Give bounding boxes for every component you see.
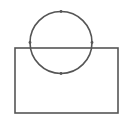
point-left	[29, 41, 32, 44]
point-bottom	[60, 72, 63, 75]
diagram-canvas	[0, 0, 127, 127]
point-right	[91, 41, 94, 44]
point-top	[60, 10, 63, 13]
background	[0, 0, 127, 127]
